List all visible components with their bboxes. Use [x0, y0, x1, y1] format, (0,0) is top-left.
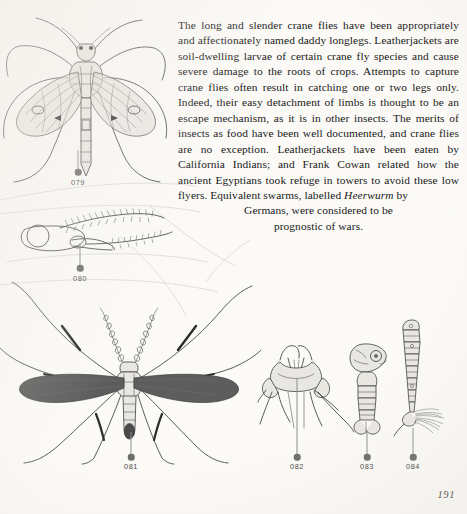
figure-082-leader — [297, 378, 298, 456]
figure-082-leader-dot — [294, 454, 301, 461]
figure-080-head-antenna-detail — [16, 210, 176, 262]
book-page: 079 — [0, 0, 467, 514]
figure-080-leader — [80, 243, 81, 267]
figure-080-leader-dot — [77, 265, 84, 272]
article-paragraph: The long and slender crane flies have be… — [178, 18, 459, 234]
paragraph-tail-line-2: prognostic of wars. — [178, 219, 459, 234]
paragraph-after-italic: by — [393, 189, 407, 201]
paragraph-tail-line-1: Germans, were considered to be — [178, 203, 459, 218]
figure-084-leader-dot — [410, 454, 417, 461]
figure-079-crane-fly-adult — [2, 14, 170, 186]
figure-082-label: 082 — [290, 462, 304, 471]
figure-081-label: 081 — [124, 462, 138, 471]
figure-079-leader-dot — [75, 169, 82, 176]
figure-083-label: 083 — [360, 462, 374, 471]
figure-084-crane-fly-larva — [392, 318, 452, 440]
figure-079-label: 079 — [71, 178, 85, 187]
figure-081-leader — [131, 432, 132, 456]
figure-083-leader-dot — [364, 454, 371, 461]
figure-082-thorax-legs-detail — [258, 340, 354, 440]
figure-083-leader — [367, 432, 368, 456]
figure-083-crane-fly-pupa — [342, 330, 398, 440]
figure-084-label: 084 — [406, 462, 420, 471]
paragraph-main: The long and slender crane flies have be… — [178, 19, 459, 201]
italic-term: Heerwurm — [344, 189, 393, 201]
figure-084-leader — [413, 428, 414, 456]
figure-081-leader-dot — [128, 454, 135, 461]
page-number: 191 — [437, 489, 455, 500]
